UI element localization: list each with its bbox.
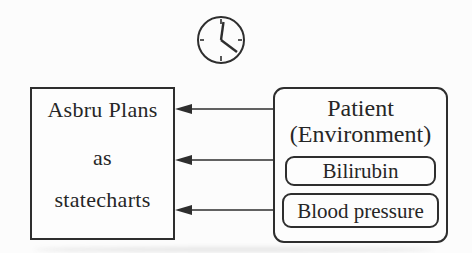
blood-pressure-box: Blood pressure	[282, 193, 439, 228]
asbru-box-line: as	[32, 145, 173, 171]
arrow-left-icon	[175, 205, 273, 215]
diagram-canvas: Asbru Plans as statecharts Patient (Envi…	[0, 0, 472, 253]
arrow-left-icon	[175, 155, 273, 165]
arrow-left-icon	[175, 104, 273, 114]
asbru-box-line: Asbru Plans	[32, 97, 173, 123]
bilirubin-box: Bilirubin	[285, 156, 436, 186]
patient-environment-box: Patient (Environment) Bilirubin Blood pr…	[273, 87, 448, 243]
scan-smudge	[34, 247, 434, 252]
asbru-box-line: statecharts	[32, 187, 173, 213]
patient-box-title: (Environment)	[275, 121, 446, 147]
clock-icon	[196, 15, 246, 65]
patient-box-title: Patient	[275, 95, 446, 121]
asbru-plans-box: Asbru Plans as statecharts	[30, 87, 175, 240]
